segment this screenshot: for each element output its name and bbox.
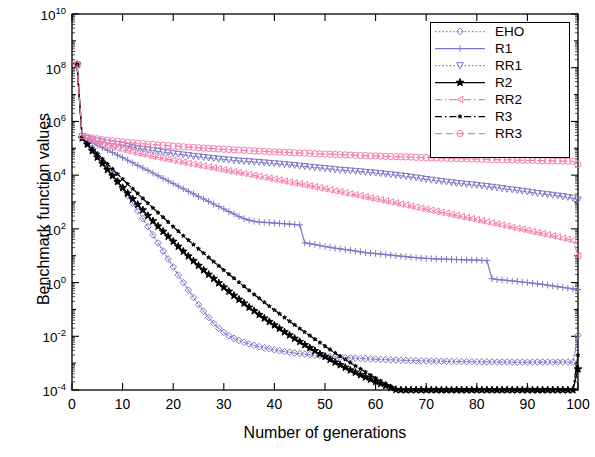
marker-plus — [327, 244, 334, 251]
marker-plus — [332, 245, 339, 252]
legend: EHOR1RR1R2RR2R3RR3 — [430, 22, 570, 158]
legend-item-RR1[interactable]: RR1 — [431, 57, 569, 74]
legend-sample-R2 — [431, 74, 489, 91]
marker-plus — [377, 251, 384, 258]
legend-sample-RR3 — [431, 125, 489, 142]
marker-plus — [352, 248, 359, 255]
marker-plus — [544, 282, 551, 289]
legend-item-R3[interactable]: R3 — [431, 108, 569, 125]
legend-label-R3: R3 — [489, 108, 512, 125]
marker-plus — [342, 246, 349, 253]
marker-plus — [560, 284, 567, 291]
marker-diamond — [170, 264, 177, 271]
legend-label-EHO: EHO — [489, 23, 524, 40]
marker-plus — [296, 222, 303, 229]
legend-item-R1[interactable]: R1 — [431, 40, 569, 57]
legend-sample-R1 — [431, 40, 489, 57]
marker-plus — [246, 217, 253, 224]
legend-label-RR2: RR2 — [489, 91, 522, 108]
marker-star — [283, 315, 287, 319]
marker-star — [353, 364, 357, 368]
marker-plus — [347, 247, 354, 254]
marker-plus — [509, 278, 516, 285]
marker-star — [379, 379, 383, 383]
marker-plus — [301, 240, 308, 247]
marker-star — [247, 288, 251, 292]
marker-star — [318, 341, 322, 345]
marker-plus — [514, 278, 521, 285]
marker-star — [131, 187, 135, 191]
marker-plus — [489, 275, 496, 282]
marker-plus — [519, 279, 526, 286]
marker-plus — [312, 241, 319, 248]
marker-plus — [539, 281, 546, 288]
marker-plus — [382, 251, 389, 258]
marker-star — [111, 167, 115, 171]
marker-star — [141, 196, 145, 200]
marker-star — [298, 326, 302, 330]
marker-plus — [457, 45, 464, 52]
marker-plus — [529, 280, 536, 287]
legend-sample-RR2 — [431, 91, 489, 108]
marker-star — [456, 79, 463, 86]
marker-plus — [322, 243, 329, 250]
marker-plus — [357, 248, 364, 255]
marker-plus — [534, 281, 541, 288]
marker-plus — [565, 285, 572, 292]
legend-label-RR3: RR3 — [489, 125, 522, 142]
marker-plus — [317, 242, 324, 249]
marker-star — [100, 157, 104, 161]
marker-star — [458, 114, 462, 118]
marker-star — [237, 280, 241, 284]
legend-label-R1: R1 — [489, 40, 512, 57]
legend-item-RR2[interactable]: RR2 — [431, 91, 569, 108]
marker-star — [181, 234, 185, 238]
marker-plus — [554, 283, 561, 290]
marker-plus — [524, 279, 531, 286]
marker-star — [207, 255, 211, 259]
legend-label-R2: R2 — [489, 74, 512, 91]
marker-plus — [251, 218, 258, 225]
marker-star — [217, 264, 221, 268]
figure-container: Benchmark function values Number of gene… — [0, 0, 595, 457]
marker-star — [262, 300, 266, 304]
marker-plus — [484, 257, 491, 264]
marker-star — [333, 351, 337, 355]
legend-sample-R3 — [431, 108, 489, 125]
marker-plus — [307, 240, 314, 247]
legend-item-EHO[interactable]: EHO — [431, 23, 569, 40]
marker-plus — [387, 252, 394, 259]
marker-diamond — [180, 279, 187, 286]
marker-star — [394, 387, 398, 391]
marker-plus — [403, 253, 410, 260]
marker-star — [576, 353, 580, 357]
legend-sample-EHO — [431, 23, 489, 40]
legend-item-R2[interactable]: R2 — [431, 74, 569, 91]
marker-star — [121, 177, 125, 181]
legend-sample-RR1 — [431, 57, 489, 74]
marker-plus — [549, 283, 556, 290]
legend-label-RR1: RR1 — [489, 57, 522, 74]
marker-plus — [575, 286, 582, 293]
legend-item-RR3[interactable]: RR3 — [431, 125, 569, 142]
marker-star — [191, 243, 195, 247]
marker-plus — [337, 246, 344, 253]
marker-star — [358, 367, 362, 371]
